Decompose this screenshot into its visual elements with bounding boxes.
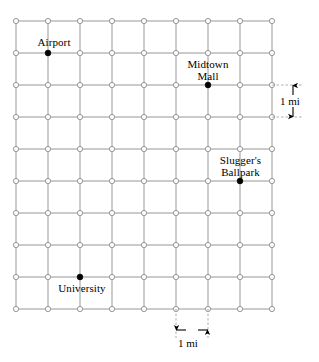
- grid-intersection-node: [269, 210, 274, 215]
- grid-intersection-node: [269, 146, 274, 151]
- grid-intersection-node: [269, 242, 274, 247]
- grid-intersection-node: [205, 242, 210, 247]
- grid-intersection-node: [109, 210, 114, 215]
- grid-intersection-node: [141, 18, 146, 23]
- grid-intersection-node: [77, 18, 82, 23]
- grid-intersection-node: [173, 18, 178, 23]
- grid-intersection-node: [109, 114, 114, 119]
- grid-intersection-node: [45, 114, 50, 119]
- grid-intersection-node: [173, 242, 178, 247]
- grid-intersection-node: [45, 178, 50, 183]
- grid-intersection-node: [77, 306, 82, 311]
- grid-intersection-node: [237, 146, 242, 151]
- grid-intersection-node: [77, 50, 82, 55]
- grid-intersection-node: [13, 306, 18, 311]
- landmark-label-sluggers-ballpark: Slugger'sBallpark: [212, 154, 269, 178]
- scale-label-vertical-scale: 1 mi: [280, 95, 300, 107]
- grid-intersection-node: [77, 242, 82, 247]
- grid-intersection-node: [45, 146, 50, 151]
- grid-intersection-node: [141, 50, 146, 55]
- grid-intersection-node: [237, 82, 242, 87]
- grid-intersection-node: [13, 274, 18, 279]
- city-grid-map-figure: AirportMidtownMallSlugger'sBallparkUnive…: [0, 0, 319, 362]
- grid-intersection-node: [141, 146, 146, 151]
- grid-intersection-node: [45, 210, 50, 215]
- grid-intersection-node: [77, 82, 82, 87]
- landmark-label-line: University: [54, 282, 110, 294]
- grid-intersection-node: [269, 274, 274, 279]
- grid-intersection-node: [109, 50, 114, 55]
- grid-intersection-node: [205, 210, 210, 215]
- grid-intersection-node: [173, 210, 178, 215]
- landmark-label-line: Ballpark: [212, 166, 269, 178]
- landmark-label-line: Airport: [31, 36, 77, 48]
- grid-intersection-node: [173, 146, 178, 151]
- grid-intersection-node: [141, 114, 146, 119]
- landmark-dot-university: [77, 274, 83, 280]
- landmark-label-line: Midtown: [180, 58, 236, 70]
- grid-intersection-node: [141, 306, 146, 311]
- grid-intersection-node: [237, 114, 242, 119]
- grid-intersection-node: [13, 18, 18, 23]
- grid-intersection-node: [109, 274, 114, 279]
- grid-intersection-node: [45, 82, 50, 87]
- grid-intersection-node: [77, 178, 82, 183]
- grid-intersection-node: [205, 50, 210, 55]
- grid-intersection-node: [109, 146, 114, 151]
- grid-intersection-node: [141, 242, 146, 247]
- grid-intersection-node: [45, 306, 50, 311]
- grid-intersection-node: [205, 114, 210, 119]
- grid-intersection-node: [13, 50, 18, 55]
- grid-intersection-node: [205, 274, 210, 279]
- grid-intersection-node: [45, 274, 50, 279]
- grid-intersection-node: [269, 50, 274, 55]
- landmark-dot-sluggers-ballpark: [237, 178, 243, 184]
- grid-intersection-node: [13, 114, 18, 119]
- grid-intersection-node: [173, 274, 178, 279]
- grid-intersection-node: [173, 178, 178, 183]
- grid-intersection-node: [13, 178, 18, 183]
- grid-intersection-node: [269, 306, 274, 311]
- grid-intersection-node: [173, 82, 178, 87]
- grid-intersection-node: [109, 306, 114, 311]
- grid-intersection-node: [77, 210, 82, 215]
- landmark-label-airport: Airport: [31, 36, 77, 48]
- grid-intersection-node: [109, 82, 114, 87]
- grid-intersection-node: [109, 178, 114, 183]
- landmark-label-midtown-mall: MidtownMall: [180, 58, 236, 82]
- grid-intersection-node: [205, 18, 210, 23]
- grid-intersection-node: [13, 210, 18, 215]
- grid-intersection-node: [237, 274, 242, 279]
- landmark-label-university: University: [54, 282, 110, 294]
- grid-intersection-node: [45, 18, 50, 23]
- grid-intersection-node: [237, 306, 242, 311]
- grid-intersection-node: [77, 146, 82, 151]
- landmark-dot-airport: [45, 50, 51, 56]
- grid-intersection-node: [237, 210, 242, 215]
- grid-intersection-node: [141, 178, 146, 183]
- grid-intersection-node: [205, 146, 210, 151]
- grid-intersection-node: [173, 50, 178, 55]
- landmark-label-line: Mall: [180, 70, 236, 82]
- grid-intersection-node: [269, 18, 274, 23]
- grid-intersection-node: [141, 274, 146, 279]
- grid-intersection-node: [141, 82, 146, 87]
- grid-intersection-node: [77, 114, 82, 119]
- grid-intersection-node: [45, 242, 50, 247]
- grid-intersection-node: [237, 18, 242, 23]
- grid-intersection-node: [109, 242, 114, 247]
- grid-intersection-node: [109, 18, 114, 23]
- landmark-label-line: Slugger's: [212, 154, 269, 166]
- grid-intersection-node: [205, 178, 210, 183]
- grid-intersection-node: [13, 242, 18, 247]
- grid-intersection-node: [141, 210, 146, 215]
- scale-label-horizontal-scale: 1 mi: [178, 337, 198, 349]
- grid-intersection-node: [173, 114, 178, 119]
- grid-graphic: [0, 0, 319, 362]
- grid-intersection-node: [13, 146, 18, 151]
- grid-intersection-node: [237, 50, 242, 55]
- grid-intersection-node: [237, 242, 242, 247]
- grid-intersection-node: [269, 178, 274, 183]
- landmark-dot-midtown-mall: [205, 82, 211, 88]
- grid-intersection-node: [13, 82, 18, 87]
